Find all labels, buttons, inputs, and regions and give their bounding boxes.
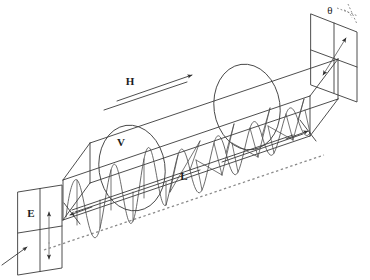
input-polarizer-panel: [18, 185, 62, 275]
label-length: L: [180, 170, 187, 182]
label-e-field: E: [27, 207, 34, 219]
cylinder-top-near-edge: [63, 96, 310, 180]
incident-ray-line: [2, 247, 27, 265]
rotated-polarization-arrow: [323, 38, 346, 75]
polarized-wave-group: [66, 99, 310, 238]
label-velocity: V: [117, 136, 125, 148]
magnetic-field-arrow: [104, 75, 192, 110]
cylinder-right-bottom-connector: [310, 99, 338, 136]
label-magnetic-field: H: [126, 75, 135, 87]
helix-spoke-1: [170, 155, 178, 192]
theta-angle-indicator: [337, 4, 358, 24]
ribbon-edge-3: [222, 124, 234, 175]
helix-spoke-7: [250, 128, 258, 157]
incident-ray-arrow: [2, 247, 27, 265]
wave-left-sinusoid: [66, 148, 166, 238]
cylinder-left-top-connector: [63, 143, 90, 180]
label-theta-angle: θ: [327, 4, 332, 16]
faraday-rotation-diagram: E: [0, 0, 370, 280]
ribbon-edge-1: [170, 141, 200, 192]
medium-cylinder: [63, 59, 338, 220]
rotated-arrow-upper: [333, 38, 346, 59]
helix-spoke-4: [214, 143, 222, 175]
ribbon-edge-4: [232, 143, 258, 157]
ribbon-edge-5: [258, 108, 270, 157]
helix-spoke-3: [196, 160, 202, 190]
length-dimension: [64, 120, 316, 224]
h-arrow-lower-line: [104, 82, 187, 110]
figure-canvas: E: [0, 0, 370, 280]
